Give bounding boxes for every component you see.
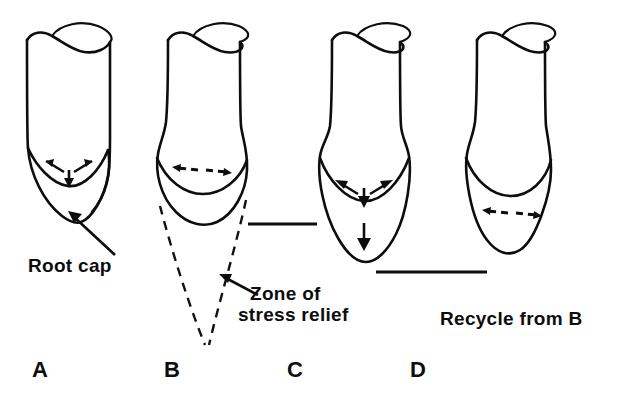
zone-label-line1: Zone of xyxy=(250,283,321,304)
root-body-a xyxy=(27,40,110,223)
stress-relief-cone xyxy=(160,200,246,345)
root-cap-label: Root cap xyxy=(28,255,112,276)
cut-surface-d xyxy=(477,33,548,53)
root-cap-pointer xyxy=(68,211,115,255)
cut-rim-c xyxy=(357,23,410,42)
panel-a: Root cap A xyxy=(27,23,115,382)
panel-letter-b: B xyxy=(164,357,180,382)
panel-b: Zone of stress relief B xyxy=(157,23,349,382)
figure-canvas: Root cap A Zone of stress relief B xyxy=(0,0,635,405)
panel-letter-d: D xyxy=(410,357,426,382)
cut-rim-a xyxy=(52,23,112,42)
cut-surface-b xyxy=(168,33,242,53)
cap-boundary-b xyxy=(157,158,247,194)
cut-surface-c xyxy=(332,33,403,53)
growth-arrows-b xyxy=(172,164,232,176)
root-body-b xyxy=(157,40,247,225)
root-body-d xyxy=(466,40,551,253)
recycle-label: Recycle from B xyxy=(440,308,583,329)
panel-d: Recycle from B D xyxy=(410,23,582,382)
panel-letter-c: C xyxy=(287,357,303,382)
cap-flank-a xyxy=(92,150,109,212)
growth-arrows-a xyxy=(46,159,92,188)
zone-label-line2: stress relief xyxy=(238,304,349,325)
root-cap-cycle-figure: Root cap A Zone of stress relief B xyxy=(0,0,635,405)
cut-rim-b xyxy=(193,23,248,42)
cap-boundary-d xyxy=(466,158,551,196)
growth-arrows-d xyxy=(482,207,542,219)
cut-surface-a xyxy=(27,33,110,53)
growth-arrows-c xyxy=(335,180,393,251)
cut-rim-d xyxy=(502,23,555,42)
panel-letter-a: A xyxy=(32,357,48,382)
